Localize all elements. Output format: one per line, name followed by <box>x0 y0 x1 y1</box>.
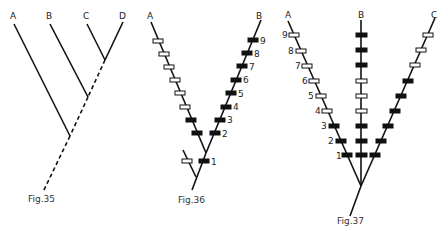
fig37-c-char-9 <box>423 33 433 37</box>
fig37-c-char-4 <box>390 109 400 113</box>
fig37-a-char-8 <box>296 49 306 53</box>
fig36-side-char <box>182 159 192 163</box>
fig35-branch-c <box>87 24 105 60</box>
fig36-b-char-5 <box>226 91 236 95</box>
fig35-branch-a <box>14 24 70 136</box>
fig37-a-char-6 <box>309 79 319 83</box>
fig35-taxon-b: B <box>46 11 52 21</box>
fig36-num-9: 9 <box>260 36 266 46</box>
fig36-b-char-2 <box>210 131 220 135</box>
fig36-b-char-9 <box>248 38 258 42</box>
fig36-taxon-a: A <box>147 11 154 21</box>
phylogeny-diagrams: A B C D Fig.35 A B <box>0 0 448 231</box>
fig37-num-1: 1 <box>336 151 342 161</box>
fig37-c-char-1 <box>370 153 380 157</box>
fig36-b-char-4 <box>221 105 231 109</box>
fig37-num-9: 9 <box>282 30 288 40</box>
fig35-root-stem <box>43 136 70 192</box>
fig36-num-5: 5 <box>238 89 244 99</box>
fig37-a-char-7 <box>302 64 312 68</box>
fig37-branch-c <box>361 18 435 186</box>
fig36-num-3: 3 <box>227 115 233 125</box>
fig37-c-char-7 <box>410 63 420 67</box>
fig37-num-8: 8 <box>288 46 294 56</box>
fig37-taxon-b: B <box>358 10 364 20</box>
fig35-taxon-a: A <box>10 11 17 21</box>
fig37-b-char-1 <box>356 153 367 157</box>
fig36-num-6: 6 <box>243 75 249 85</box>
fig37-num-5: 5 <box>308 91 314 101</box>
fig37-a-char-3 <box>329 124 339 128</box>
fig35-branch-b <box>50 24 88 97</box>
fig36-a-char-9 <box>153 39 163 43</box>
fig37-c-char-2 <box>376 139 386 143</box>
fig36-a-char-8 <box>159 52 169 56</box>
fig35-caption: Fig.35 <box>28 194 55 204</box>
fig36-stem-char-1 <box>199 159 209 163</box>
fig36-a-char-6 <box>170 78 180 82</box>
fig36-num-8: 8 <box>254 49 260 59</box>
fig35-taxon-c: C <box>83 11 89 21</box>
fig37-b-char-2 <box>356 139 367 143</box>
fig37-c-char-8 <box>416 48 426 52</box>
fig35-internode-bcd <box>70 97 88 136</box>
fig36-b-char-8 <box>242 51 252 55</box>
fig37-b-char-8 <box>356 48 367 52</box>
fig37-taxon-a: A <box>285 10 292 20</box>
fig35-branch-d <box>105 22 123 60</box>
fig37-a-char-1 <box>342 153 352 157</box>
fig37-caption: Fig.37 <box>337 216 364 226</box>
fig36-num-2: 2 <box>222 129 228 139</box>
fig37-b-char-9 <box>356 33 367 37</box>
fig37-c-char-5 <box>396 94 406 98</box>
fig37-b-char-4 <box>356 109 367 113</box>
fig37-b-char-3 <box>356 124 367 128</box>
fig36-b-char-6 <box>231 78 241 82</box>
fig37-num-6: 6 <box>302 76 308 86</box>
fig37-num-3: 3 <box>321 121 327 131</box>
fig36-b-char-7 <box>237 64 247 68</box>
fig37-c-char-3 <box>383 124 393 128</box>
fig37-branch-a <box>288 21 361 186</box>
fig36-a-char-7 <box>164 65 174 69</box>
fig36-num-7: 7 <box>249 62 255 72</box>
fig36-a-char-5 <box>175 91 185 95</box>
fig35-taxon-d: D <box>119 11 126 21</box>
fig37-num-4: 4 <box>315 106 321 116</box>
fig37-b-char-5 <box>356 94 367 98</box>
fig37-a-char-5 <box>316 94 326 98</box>
fig36-a-char-4 <box>180 105 190 109</box>
fig37-a-char-2 <box>336 139 346 143</box>
fig36-b-char-3 <box>215 118 225 122</box>
fig36-cladogram: A B 9 8 7 6 5 4 3 2 1 <box>147 11 266 205</box>
fig37-a-char-4 <box>322 109 332 113</box>
fig36-a-char-2 <box>192 131 202 135</box>
fig37-a-char-9 <box>289 33 299 37</box>
fig37-stem <box>350 186 361 216</box>
fig36-num-4: 4 <box>233 102 239 112</box>
fig37-b-char-6 <box>356 79 367 83</box>
fig37-num-7: 7 <box>295 61 301 71</box>
fig37-num-2: 2 <box>328 136 334 146</box>
fig36-num-1: 1 <box>211 157 217 167</box>
fig37-c-char-6 <box>403 79 413 83</box>
fig36-a-char-3 <box>186 118 196 122</box>
fig35-internode-cd <box>88 60 105 97</box>
fig37-cladogram: A B C 9 <box>282 10 437 226</box>
fig36-taxon-b: B <box>256 11 262 21</box>
fig36-caption: Fig.36 <box>178 195 205 205</box>
fig35-cladogram: A B C D Fig.35 <box>10 11 126 204</box>
fig37-b-char-7 <box>356 63 367 67</box>
